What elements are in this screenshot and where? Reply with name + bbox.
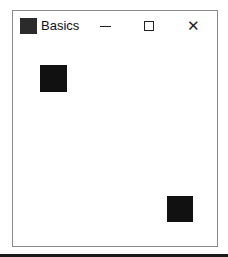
square-top-left (40, 65, 67, 92)
minimize-icon (100, 26, 111, 27)
title-bar[interactable]: Basics ✕ (13, 11, 217, 41)
window-title: Basics (41, 17, 79, 35)
client-area (13, 41, 217, 246)
square-bottom-right (167, 196, 193, 222)
app-window: Basics ✕ (12, 10, 218, 247)
close-button[interactable]: ✕ (173, 11, 213, 41)
close-icon: ✕ (187, 17, 200, 35)
maximize-button[interactable] (129, 11, 169, 41)
minimize-button[interactable] (85, 11, 125, 41)
maximize-icon (144, 21, 154, 31)
app-icon (20, 18, 37, 34)
